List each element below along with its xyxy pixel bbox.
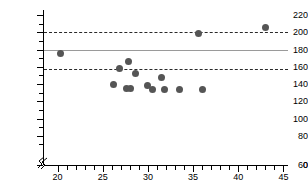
x-tick-minor-38 — [220, 166, 221, 170]
y-tick-minor-130 — [39, 93, 43, 94]
x-tick-minor-23 — [85, 166, 86, 170]
y-tick-120 — [37, 101, 43, 102]
x-tick-label-35: 35 — [180, 173, 206, 182]
x-tick-minor-28 — [130, 166, 131, 170]
x-tick-minor-33 — [175, 166, 176, 170]
data-point — [125, 58, 132, 65]
y-tick-220 — [37, 15, 43, 16]
x-tick-minor-39 — [229, 166, 230, 170]
x-tick-minor-44 — [274, 166, 275, 170]
data-point — [176, 86, 183, 93]
y-tick-60 — [37, 165, 43, 166]
reference-line-mean-line — [44, 50, 288, 51]
data-point — [262, 24, 269, 31]
data-point — [57, 50, 64, 57]
y-tick-minor-70 — [39, 144, 43, 145]
x-tick-minor-42 — [256, 166, 257, 170]
y-tick-160 — [37, 67, 43, 68]
y-tick-minor-170 — [39, 58, 43, 59]
data-point — [161, 86, 168, 93]
data-point — [149, 86, 156, 93]
x-tick-label-40: 40 — [225, 173, 251, 182]
data-point — [127, 85, 134, 92]
y-tick-minor-90 — [39, 127, 43, 128]
data-point — [110, 81, 117, 88]
data-point — [199, 86, 206, 93]
data-point — [132, 70, 139, 77]
x-tick-minor-24 — [94, 166, 95, 170]
x-tick-minor-27 — [121, 166, 122, 170]
reference-line-lower-limit-of-agreement — [44, 69, 288, 70]
x-tick-label-30: 30 — [135, 173, 161, 182]
x-tick-minor-41 — [247, 166, 248, 170]
x-tick-label-45: 45 — [270, 173, 296, 182]
y-tick-80 — [37, 136, 43, 137]
data-point — [116, 65, 123, 72]
scatter-chart: 06080100120140160180200220 202530354045 — [0, 0, 308, 192]
y-tick-100 — [37, 119, 43, 120]
data-point — [195, 30, 202, 37]
x-tick-label-25: 25 — [90, 173, 116, 182]
x-tick-minor-37 — [211, 166, 212, 170]
x-tick-minor-43 — [265, 166, 266, 170]
x-tick-label-20: 20 — [45, 173, 71, 182]
y-tick-minor-110 — [39, 110, 43, 111]
y-tick-200 — [37, 32, 43, 33]
x-tick-minor-26 — [112, 166, 113, 170]
x-tick-minor-31 — [157, 166, 158, 170]
y-tick-140 — [37, 84, 43, 85]
plot-area — [44, 10, 288, 165]
x-tick-minor-32 — [166, 166, 167, 170]
x-tick-minor-22 — [76, 166, 77, 170]
y-tick-180 — [37, 50, 43, 51]
y-tick-minor-190 — [39, 41, 43, 42]
data-point — [158, 74, 165, 81]
x-tick-minor-36 — [202, 166, 203, 170]
x-tick-minor-34 — [184, 166, 185, 170]
reference-line-upper-limit-of-agreement — [44, 32, 288, 33]
y-tick-minor-150 — [39, 75, 43, 76]
x-tick-minor-29 — [139, 166, 140, 170]
x-tick-minor-21 — [67, 166, 68, 170]
y-tick-minor-210 — [39, 24, 43, 25]
